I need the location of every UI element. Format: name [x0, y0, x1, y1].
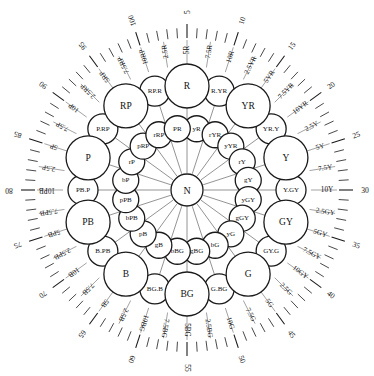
- tick-major: [136, 335, 140, 348]
- tick-minor: [215, 31, 217, 41]
- tick-minor: [177, 28, 178, 38]
- principal-hue-BG-label: BG: [180, 289, 193, 299]
- scale-number-label: 15: [286, 40, 298, 52]
- tick-major: [234, 335, 238, 348]
- tick-minor: [28, 218, 38, 220]
- hue-name-label: 7.5G: [244, 307, 258, 323]
- tick-minor: [328, 130, 337, 134]
- hue-name-label: 7.5R: [204, 44, 214, 59]
- scale-number-label: 30: [361, 186, 369, 195]
- tick-minor: [206, 29, 207, 39]
- principal-hue-GY-label: GY: [279, 217, 293, 227]
- tick-minor: [62, 287, 70, 293]
- hue-name-label: 2.5PB: [52, 246, 72, 261]
- tick-minor: [315, 103, 323, 108]
- hue-name-label: 10RP: [137, 48, 150, 66]
- scale-number-label: 20: [325, 79, 337, 91]
- intermediate-hue-RP.R-label: RP.R: [148, 87, 163, 95]
- inner-hue-rY-label: rY: [239, 158, 246, 166]
- munsell-diagram-container: 5R7.5R10R2.5YR5YR7.5YR10YR2.5Y5Y7.5Y10Y2…: [0, 0, 374, 376]
- tick-minor: [284, 307, 290, 315]
- intermediate-hue-G.BG-label: G.BG: [211, 285, 228, 293]
- inner-hue-bBG-label: bBG: [171, 247, 184, 255]
- hue-name-label: 7.5PB: [39, 207, 58, 218]
- tick-minor: [118, 43, 122, 52]
- tick-minor: [225, 33, 227, 43]
- tick-major: [53, 92, 64, 100]
- hue-name-label: 7.5BG: [160, 318, 171, 338]
- scale-number-label: 80: [5, 186, 13, 195]
- hue-name-label: 10YR: [291, 99, 310, 116]
- hue-name-label: 10BG: [137, 314, 150, 333]
- tick-minor: [69, 79, 76, 86]
- hue-name-label: 10Y: [321, 186, 334, 194]
- tick-minor: [45, 112, 54, 117]
- tick-minor: [167, 341, 168, 351]
- tick-minor: [325, 255, 334, 259]
- tick-major: [29, 237, 42, 241]
- tick-minor: [69, 294, 76, 301]
- tick-minor: [325, 121, 334, 125]
- tick-minor: [50, 103, 58, 108]
- hue-name-label: 5YR: [262, 69, 277, 85]
- tick-minor: [157, 31, 159, 41]
- tick-minor: [197, 342, 198, 352]
- scale-number-label: 5: [183, 10, 192, 14]
- intermediate-hue-YR.Y-label: YR.Y: [263, 125, 280, 133]
- tick-minor: [304, 87, 312, 93]
- scale-number-label: 85: [13, 129, 23, 140]
- tick-major: [89, 56, 97, 67]
- hue-name-label: 5P: [49, 142, 59, 152]
- hue-name-label: 5R: [183, 46, 191, 55]
- scale-number-label: 70: [37, 289, 49, 301]
- hue-name-label: 2.5P: [42, 163, 56, 173]
- inner-hue-pPB-label: pPB: [120, 196, 132, 204]
- hue-name-label: 5Y: [315, 141, 327, 152]
- intermediate-hue-P.RP-label: P.RP: [96, 125, 110, 133]
- inner-hue-gGY-label: gGY: [235, 214, 249, 222]
- tick-minor: [268, 318, 273, 326]
- tick-minor: [118, 328, 122, 337]
- tick-major: [276, 56, 284, 67]
- scale-number-label: 25: [351, 129, 361, 140]
- tick-minor: [334, 150, 344, 152]
- hue-name-label: 7.5P: [55, 120, 70, 133]
- tick-minor: [76, 72, 83, 79]
- hue-name-label: 10G: [225, 316, 236, 330]
- tick-minor: [334, 228, 344, 230]
- tick-minor: [177, 342, 178, 352]
- tick-minor: [147, 33, 149, 43]
- intermediate-hue-BG.B-label: BG.B: [147, 285, 163, 293]
- inner-hue-PR-label: PR: [173, 125, 182, 133]
- scale-number-label: 75: [13, 240, 23, 251]
- tick-minor: [252, 43, 256, 52]
- tick-minor: [100, 53, 105, 61]
- tick-minor: [298, 79, 305, 86]
- inner-hue-rP-label: rP: [129, 158, 135, 166]
- hue-name-label: 10R: [225, 50, 236, 64]
- inner-hue-gB-label: gB: [155, 241, 164, 249]
- tick-minor: [109, 323, 114, 332]
- hue-name-label: 7.5Y: [318, 163, 334, 173]
- tick-minor: [225, 337, 227, 347]
- intermediate-hue-Y.GY-label: Y.GY: [283, 186, 299, 194]
- munsell-hue-circle-svg: 5R7.5R10R2.5YR5YR7.5YR10YR2.5Y5Y7.5Y10Y2…: [0, 0, 374, 376]
- tick-minor: [167, 29, 168, 39]
- tick-minor: [338, 209, 348, 210]
- tick-minor: [338, 170, 348, 171]
- tick-minor: [147, 337, 149, 347]
- tick-minor: [243, 331, 247, 340]
- tick-minor: [215, 339, 217, 349]
- inner-hue-pB-label: pB: [139, 230, 148, 238]
- tick-minor: [40, 121, 49, 125]
- scale-number-label: 40: [325, 289, 337, 301]
- tick-minor: [291, 301, 298, 308]
- tick-minor: [100, 318, 105, 326]
- principal-hue-P-label: P: [85, 153, 90, 163]
- principal-hue-G-label: G: [245, 269, 252, 279]
- tick-minor: [260, 323, 265, 332]
- principal-hue-R-label: R: [184, 81, 191, 91]
- hue-name-label: 5G: [263, 297, 275, 309]
- hue-name-label: 2.5Y: [304, 119, 321, 133]
- tick-minor: [26, 170, 36, 171]
